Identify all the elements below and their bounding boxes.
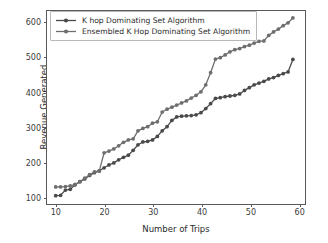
series-marker	[262, 79, 266, 83]
series-marker	[204, 83, 208, 87]
series-marker	[136, 143, 140, 147]
series-marker	[286, 21, 290, 25]
series-marker	[165, 107, 169, 111]
x-tick-mark	[202, 204, 203, 207]
y-tick-label: 200	[26, 159, 41, 168]
legend-label: K hop Dominating Set Algorithm	[82, 15, 205, 26]
series-marker	[199, 111, 203, 115]
series-marker	[73, 183, 77, 187]
series-marker	[281, 24, 285, 28]
series-marker	[223, 95, 227, 99]
series-marker	[247, 43, 251, 47]
series-marker	[214, 97, 218, 101]
series-marker	[189, 96, 193, 100]
y-tick-label: 400	[26, 88, 41, 97]
series-marker	[126, 138, 130, 142]
series-marker	[252, 41, 256, 45]
series-marker	[194, 93, 198, 97]
series-marker	[141, 127, 145, 131]
y-tick-mark	[44, 93, 47, 94]
series-marker	[228, 94, 232, 98]
y-tick-mark	[44, 163, 47, 164]
series-marker	[247, 86, 251, 90]
series-marker	[160, 110, 164, 114]
legend-item[interactable]: Ensembled K Hop Dominating Set Algorithm	[55, 26, 250, 37]
series-marker	[272, 76, 276, 80]
x-tick-mark	[105, 204, 106, 207]
x-tick-label: 60	[295, 208, 305, 217]
x-tick-label: 50	[246, 208, 256, 217]
series-marker	[141, 140, 145, 144]
x-tick-mark	[251, 204, 252, 207]
series-marker	[175, 115, 179, 119]
series-marker	[262, 39, 266, 43]
chart-figure: Revenue Generated Number of Trips 102030…	[0, 0, 328, 243]
series-marker	[243, 45, 247, 49]
legend-item[interactable]: K hop Dominating Set Algorithm	[55, 15, 250, 26]
series-marker	[291, 58, 295, 62]
y-tick-mark	[44, 198, 47, 199]
series-marker	[276, 74, 280, 78]
series-marker	[59, 185, 63, 189]
series-marker	[281, 72, 285, 76]
series-marker	[151, 138, 155, 142]
x-tick-label: 10	[51, 208, 61, 217]
series-marker	[93, 170, 97, 174]
series-marker	[117, 144, 121, 148]
series-marker	[185, 99, 189, 103]
series-line	[56, 18, 293, 187]
series-marker	[243, 89, 247, 93]
series-marker	[175, 103, 179, 107]
series-marker	[228, 50, 232, 54]
series-marker	[146, 139, 150, 143]
y-tick-label: 600	[26, 18, 41, 27]
series-marker	[185, 114, 189, 118]
series-marker	[155, 135, 159, 139]
series-marker	[180, 101, 184, 105]
series-marker	[267, 77, 271, 81]
series-marker	[233, 93, 237, 97]
series-marker	[170, 105, 174, 109]
series-marker	[97, 169, 101, 173]
series-marker	[170, 119, 174, 123]
series-marker	[88, 173, 92, 177]
legend-swatch-line-marker	[55, 16, 77, 25]
x-axis-label: Number of Trips	[46, 224, 306, 234]
legend: K hop Dominating Set AlgorithmEnsembled …	[50, 11, 257, 41]
y-tick-mark	[44, 128, 47, 129]
y-tick-label: 100	[26, 194, 41, 203]
series-marker	[267, 34, 271, 38]
series-marker	[155, 120, 159, 124]
series-marker	[59, 193, 63, 197]
x-tick-label: 20	[99, 208, 109, 217]
series-marker	[218, 56, 222, 60]
series-marker	[54, 185, 58, 189]
y-tick-label: 500	[26, 53, 41, 62]
series-marker	[54, 194, 58, 198]
series-marker	[209, 102, 213, 106]
series-marker	[102, 166, 106, 170]
series-marker	[291, 16, 295, 20]
series-marker	[209, 71, 213, 75]
series-marker	[257, 39, 261, 43]
series-marker	[180, 114, 184, 118]
x-tick-mark	[300, 204, 301, 207]
series-marker	[272, 30, 276, 34]
series-marker	[107, 163, 111, 167]
series-marker	[257, 81, 261, 85]
y-tick-label: 300	[26, 123, 41, 132]
series-marker	[238, 47, 242, 51]
series-marker	[136, 129, 140, 133]
y-tick-mark	[44, 57, 47, 58]
series-marker	[68, 187, 72, 191]
data-series-2	[54, 16, 295, 189]
legend-swatch-line-marker	[55, 27, 77, 36]
series-marker	[112, 161, 116, 165]
series-marker	[165, 125, 169, 129]
series-marker	[189, 114, 193, 118]
series-marker	[204, 107, 208, 111]
series-marker	[131, 137, 135, 141]
series-marker	[218, 96, 222, 100]
series-marker	[78, 180, 82, 184]
series-marker	[64, 188, 68, 192]
